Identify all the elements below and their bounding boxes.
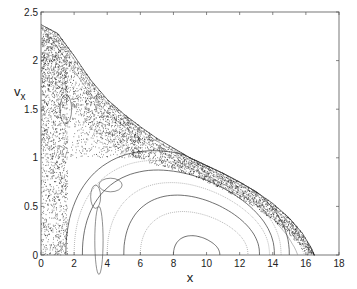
x-tick-label: 12 xyxy=(234,258,246,269)
y-tick-label: 0.5 xyxy=(24,201,38,212)
x-tick-label: 0 xyxy=(38,258,44,269)
chaotic-points xyxy=(41,27,315,255)
invariant-curve xyxy=(74,160,281,255)
x-tick-label: 2 xyxy=(71,258,77,269)
poincare-plot: 02468101214161800.511.522.5 x vx xyxy=(0,0,357,289)
y-tick-label: 2.5 xyxy=(24,7,38,18)
y-tick-label: 1.5 xyxy=(24,104,38,115)
data-layer xyxy=(41,25,315,275)
x-axis-label: x xyxy=(187,270,194,285)
invariant-curve xyxy=(173,236,219,255)
x-tick-label: 4 xyxy=(104,258,110,269)
y-axis-label: vx xyxy=(14,84,26,102)
plot-frame xyxy=(41,12,339,255)
x-tick-label: 6 xyxy=(138,258,144,269)
x-tick-label: 18 xyxy=(333,258,345,269)
x-tick-label: 16 xyxy=(300,258,312,269)
y-tick-label: 2 xyxy=(32,55,38,66)
x-tick-label: 14 xyxy=(267,258,279,269)
boundary-curve xyxy=(41,28,309,253)
y-tick-label: 0 xyxy=(32,250,38,261)
island-loop xyxy=(95,206,103,274)
x-tick-label: 10 xyxy=(201,258,213,269)
axis-ticks: 02468101214161800.511.522.5 xyxy=(24,7,345,270)
y-tick-label: 1 xyxy=(32,152,38,163)
invariant-curve xyxy=(140,212,248,256)
x-tick-label: 8 xyxy=(171,258,177,269)
y-axis-label-sub: x xyxy=(21,91,26,102)
boundary-curve xyxy=(41,33,304,254)
invariant-curve xyxy=(124,195,260,255)
